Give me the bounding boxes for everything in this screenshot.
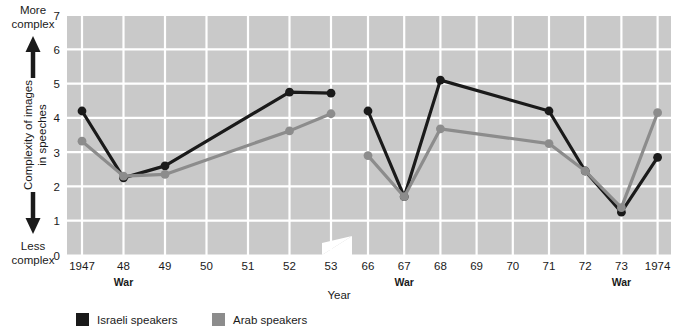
data-point-71 (545, 139, 554, 148)
legend-label-israeli: Israeli speakers (97, 314, 178, 326)
war-annotation-73: War (612, 276, 631, 288)
data-point-49 (161, 161, 170, 170)
legend-swatch-arab (212, 313, 225, 326)
data-point-1947 (78, 137, 87, 146)
less-complex-label-line1: Less (21, 240, 46, 252)
data-point-1974 (653, 153, 662, 162)
chart-container: 01234567 1947484950515253666768697071727… (0, 0, 678, 336)
x-tick-51: 51 (242, 260, 255, 272)
x-tick-53: 53 (325, 260, 338, 272)
data-point-73 (617, 203, 626, 212)
y-tick-3: 3 (54, 147, 60, 159)
y-axis-title-line1: Complexity of images (22, 80, 34, 190)
legend-swatch-israeli (76, 313, 89, 326)
x-tick-70: 70 (506, 260, 519, 272)
x-tick-1974: 1974 (645, 260, 671, 272)
war-annotation-67: War (394, 276, 413, 288)
x-axis-tick-labels: 194748495051525366676869707172731974 (69, 260, 671, 272)
up-arrow-icon (26, 36, 41, 78)
more-complex-label-line1: More (20, 4, 46, 16)
legend: Israeli speakers Arab speakers (76, 313, 307, 326)
data-point-52 (285, 88, 294, 97)
y-tick-7: 7 (54, 10, 60, 22)
y-axis-tick-labels: 01234567 (54, 10, 61, 262)
x-tick-50: 50 (200, 260, 213, 272)
y-axis-title: Complexity of images in speeches (22, 80, 48, 190)
data-point-1947 (78, 107, 87, 116)
x-tick-49: 49 (159, 260, 172, 272)
legend-label-arab: Arab speakers (233, 314, 307, 326)
x-tick-1947: 1947 (69, 260, 95, 272)
y-axis-title-line2: in speeches (36, 104, 48, 166)
data-point-72 (581, 167, 590, 176)
data-point-68 (436, 76, 445, 85)
war-annotations: WarWarWar (114, 276, 631, 288)
data-point-71 (545, 107, 554, 116)
data-point-53 (327, 109, 336, 118)
x-tick-52: 52 (283, 260, 296, 272)
data-point-53 (327, 89, 336, 98)
y-tick-6: 6 (54, 44, 60, 56)
data-point-66 (364, 107, 373, 116)
data-point-67 (400, 192, 409, 201)
more-complex-label-line2: complex (12, 18, 55, 30)
war-annotation-48: War (114, 276, 133, 288)
data-point-49 (161, 170, 170, 179)
data-point-52 (285, 126, 294, 135)
y-tick-1: 1 (54, 215, 60, 227)
y-tick-0: 0 (54, 250, 60, 262)
x-tick-48: 48 (117, 260, 130, 272)
x-tick-68: 68 (434, 260, 447, 272)
data-point-1974 (653, 108, 662, 117)
line-chart-svg: 01234567 1947484950515253666768697071727… (0, 0, 678, 336)
data-point-66 (364, 151, 373, 160)
x-tick-69: 69 (470, 260, 483, 272)
x-axis-title: Year (327, 289, 350, 301)
x-tick-71: 71 (543, 260, 556, 272)
x-tick-67: 67 (398, 260, 411, 272)
down-arrow-icon (26, 192, 41, 234)
x-tick-72: 72 (579, 260, 592, 272)
data-point-48 (119, 172, 128, 181)
y-tick-2: 2 (54, 181, 60, 193)
x-tick-66: 66 (362, 260, 375, 272)
x-tick-73: 73 (615, 260, 628, 272)
y-tick-5: 5 (54, 78, 60, 90)
data-point-68 (436, 124, 445, 133)
less-complex-label-line2: complex (12, 254, 55, 266)
y-tick-4: 4 (54, 112, 61, 124)
